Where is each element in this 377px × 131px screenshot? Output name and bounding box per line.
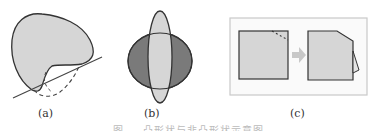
figure-caption: 图 … 凸形状与非凸形状示意图 bbox=[0, 124, 377, 131]
panel-b: (b) bbox=[120, 0, 230, 110]
original-square bbox=[239, 31, 288, 79]
panel-c-label: (c) bbox=[290, 107, 305, 120]
panel-a: (a) bbox=[0, 0, 120, 110]
corner-fold-diagram bbox=[225, 0, 377, 110]
panel-b-label: (b) bbox=[144, 107, 160, 120]
folded-square bbox=[308, 31, 353, 80]
panel-c: (c) bbox=[225, 0, 377, 110]
overlapping-ellipses-diagram bbox=[120, 0, 230, 110]
panel-a-label: (a) bbox=[38, 107, 53, 120]
non-convex-blob-diagram bbox=[0, 0, 120, 110]
